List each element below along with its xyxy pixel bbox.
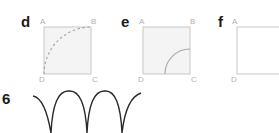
corner-b: B (190, 18, 195, 26)
corner-c: C (92, 76, 98, 84)
corner-d: D (231, 76, 237, 84)
panel-d-square (44, 27, 91, 74)
cycloid-arches (33, 91, 141, 133)
panel-f-square (237, 27, 279, 74)
corner-a: A (40, 18, 45, 26)
corner-a: A (232, 18, 237, 26)
panel-e-square (143, 27, 190, 74)
panel-f-label: f (218, 14, 223, 29)
corner-d: D (39, 76, 45, 84)
panel-d-label: d (21, 14, 30, 29)
question-number: 6 (2, 91, 10, 106)
corner-a: A (139, 18, 144, 26)
corner-d: D (138, 76, 144, 84)
corner-c: C (191, 76, 197, 84)
panel-e-label: e (121, 14, 129, 29)
corner-b: B (91, 18, 96, 26)
